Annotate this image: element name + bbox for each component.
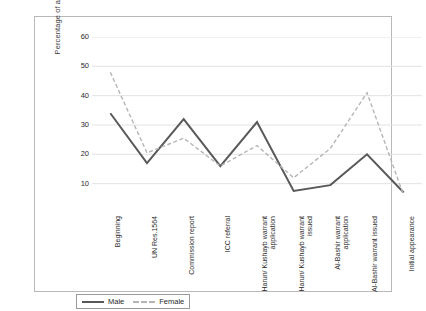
x-category-label: ICC referral (224, 216, 236, 294)
chart-legend: Male Female (76, 294, 190, 309)
legend-label-male: Male (108, 297, 124, 306)
x-category-label: Al-Bashir warrant application (334, 216, 346, 294)
legend-item-female: Female (133, 297, 184, 306)
x-axis-category-labels: BeginningUN Res.1564Commission reportICC… (92, 216, 422, 294)
y-axis-tick-labels: 605040302010 (68, 37, 89, 213)
x-category-label: Commission report (188, 216, 200, 294)
female-line-swatch-icon (133, 301, 155, 303)
y-tick-label: 60 (71, 33, 89, 41)
x-category-label: Al-Bashir warrant issued (371, 216, 383, 294)
male-line-swatch-icon (82, 301, 104, 303)
y-tick-label: 10 (71, 180, 89, 188)
x-category-label: Initial appearance (408, 216, 420, 294)
y-tick-label: 40 (71, 92, 89, 100)
chart-frame: Percentage of articles 605040302010 Begi… (34, 16, 392, 292)
y-tick-label: 50 (71, 62, 89, 70)
line-chart-svg (92, 37, 422, 213)
y-axis-title: Percentage of articles (53, 0, 67, 77)
x-category-label: Beginning (114, 216, 126, 294)
x-category-label: Harun/ Kushayb warrant application (261, 216, 273, 294)
plot-area (92, 37, 422, 213)
y-tick-label: 20 (71, 150, 89, 158)
series-line-female (110, 72, 403, 195)
legend-label-female: Female (159, 297, 184, 306)
x-category-label: UN Res.1564 (151, 216, 163, 294)
x-category-label: Harun/ Kushayb warrant issued (298, 216, 310, 294)
legend-item-male: Male (82, 297, 124, 306)
y-tick-label: 30 (71, 121, 89, 129)
